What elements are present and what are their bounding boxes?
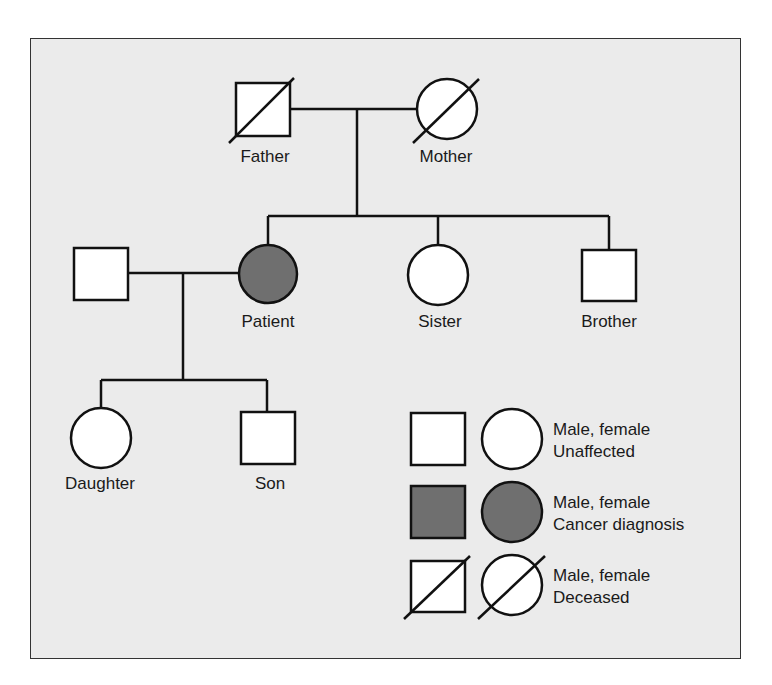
daughter-label: Daughter	[65, 474, 135, 493]
patient-label: Patient	[242, 312, 295, 331]
mother-symbol	[413, 79, 479, 143]
legend-female-unaffected-icon	[482, 409, 542, 469]
father-symbol	[229, 78, 294, 143]
legend-male-unaffected-icon	[411, 413, 465, 465]
legend-deceased-line1: Male, female	[553, 566, 650, 585]
patient-symbol	[239, 245, 297, 303]
spouse-symbol	[74, 248, 128, 300]
legend-affected-line2: Cancer diagnosis	[553, 515, 684, 534]
legend-unaffected-line1: Male, female	[553, 420, 650, 439]
son-label: Son	[255, 474, 285, 493]
daughter-symbol	[71, 408, 131, 468]
legend-unaffected-line2: Unaffected	[553, 442, 635, 461]
pedigree-chart: Father Mother Patient Sister Brother Dau…	[0, 0, 772, 685]
connector-lines	[101, 109, 609, 412]
legend-female-affected-icon	[482, 482, 542, 542]
brother-symbol	[582, 250, 636, 301]
brother-label: Brother	[581, 312, 637, 331]
legend-male-affected-icon	[411, 486, 465, 538]
father-label: Father	[240, 147, 289, 166]
mother-label: Mother	[420, 147, 473, 166]
sister-symbol	[408, 245, 468, 305]
sister-label: Sister	[418, 312, 462, 331]
son-symbol	[241, 412, 295, 464]
legend-deceased-line2: Deceased	[553, 588, 630, 607]
legend-affected-line1: Male, female	[553, 493, 650, 512]
legend: Male, female Unaffected Male, female Can…	[404, 409, 684, 619]
